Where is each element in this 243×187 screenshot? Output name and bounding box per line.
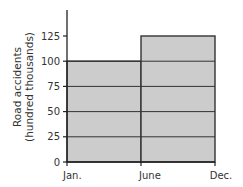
x-ticks: Jan.JuneDec. (62, 162, 232, 181)
x-tick-label: Dec. (210, 170, 233, 181)
y-tick-label: 0 (54, 157, 60, 168)
bar-2 (141, 36, 215, 162)
y-axis-title-line1: Road accidents (11, 47, 23, 127)
y-tick-label: 75 (47, 81, 60, 92)
y-tick-label: 25 (47, 131, 60, 142)
y-tick-label: 50 (47, 106, 60, 117)
bar-chart: 0255075100125 Jan.JuneDec. Road accident… (0, 0, 243, 187)
y-axis-title-line2: (hundred thousands) (23, 32, 35, 142)
x-tick-label: Jan. (62, 170, 82, 181)
x-tick-label: June (138, 170, 161, 181)
y-ticks: 0255075100125 (41, 31, 67, 168)
y-tick-label: 100 (41, 56, 60, 67)
y-tick-label: 125 (41, 31, 60, 42)
bars (67, 36, 215, 162)
